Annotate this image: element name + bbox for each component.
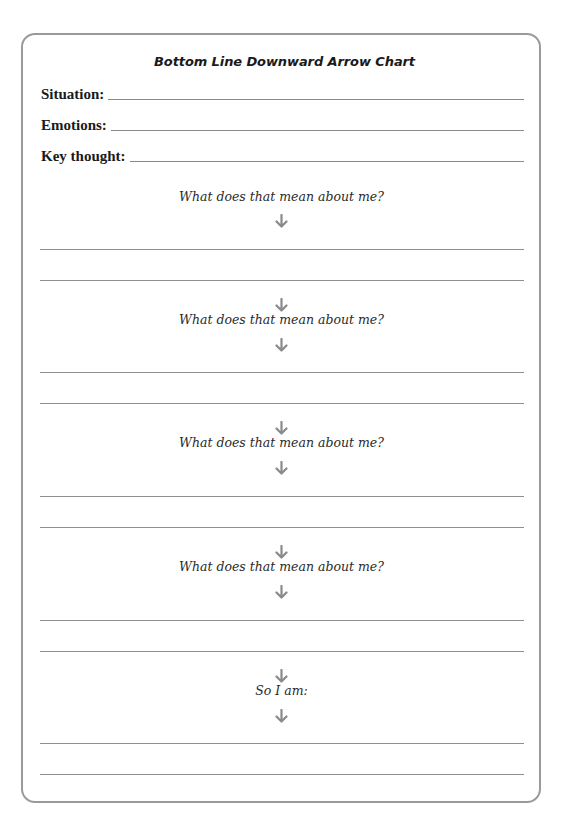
key-thought-input-line[interactable] bbox=[130, 161, 524, 162]
down-arrow-icon bbox=[275, 298, 288, 312]
conclusion-prompt: So I am: bbox=[0, 683, 563, 699]
step-3-answer-line-1[interactable] bbox=[40, 496, 524, 497]
step-3-prompt: What does that mean about me? bbox=[0, 435, 563, 451]
down-arrow-icon bbox=[275, 709, 288, 723]
emotions-field[interactable]: Emotions: bbox=[41, 113, 524, 133]
worksheet-title: Bottom Line Downward Arrow Chart bbox=[0, 54, 569, 69]
step-4-prompt: What does that mean about me? bbox=[0, 559, 563, 575]
step-1-prompt: What does that mean about me? bbox=[0, 189, 563, 205]
down-arrow-icon bbox=[275, 214, 288, 228]
step-2-prompt: What does that mean about me? bbox=[0, 312, 563, 328]
step-3-answer-line-2[interactable] bbox=[40, 527, 524, 528]
down-arrow-icon bbox=[275, 585, 288, 599]
down-arrow-icon bbox=[275, 421, 288, 435]
conclusion-answer-line-2[interactable] bbox=[40, 774, 524, 775]
emotions-input-line[interactable] bbox=[111, 130, 524, 131]
down-arrow-icon bbox=[275, 461, 288, 475]
step-1-answer-line-1[interactable] bbox=[40, 249, 524, 250]
conclusion-answer-line-1[interactable] bbox=[40, 743, 524, 744]
down-arrow-icon bbox=[275, 338, 288, 352]
situation-input-line[interactable] bbox=[108, 99, 524, 100]
key-thought-field[interactable]: Key thought: bbox=[41, 144, 524, 164]
step-4-answer-line-1[interactable] bbox=[40, 620, 524, 621]
down-arrow-icon bbox=[275, 545, 288, 559]
step-1-answer-line-2[interactable] bbox=[40, 280, 524, 281]
step-4-answer-line-2[interactable] bbox=[40, 651, 524, 652]
emotions-label: Emotions: bbox=[41, 117, 111, 133]
down-arrow-icon bbox=[275, 669, 288, 683]
step-2-answer-line-1[interactable] bbox=[40, 372, 524, 373]
situation-field[interactable]: Situation: bbox=[41, 82, 524, 102]
step-2-answer-line-2[interactable] bbox=[40, 403, 524, 404]
situation-label: Situation: bbox=[41, 86, 108, 102]
key-thought-label: Key thought: bbox=[41, 148, 130, 164]
